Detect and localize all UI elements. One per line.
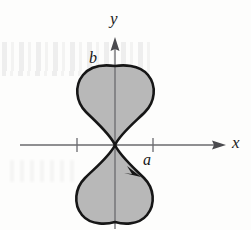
curve-plot-svg bbox=[0, 0, 251, 230]
parameter-label-b: b bbox=[89, 50, 97, 66]
arrow-right-icon bbox=[212, 141, 226, 150]
x-axis-label: x bbox=[232, 134, 240, 151]
y-axis-label: y bbox=[110, 10, 118, 27]
figure-container: y x b a bbox=[0, 0, 251, 230]
parameter-label-a: a bbox=[143, 152, 151, 168]
arrow-up-icon bbox=[111, 37, 120, 51]
